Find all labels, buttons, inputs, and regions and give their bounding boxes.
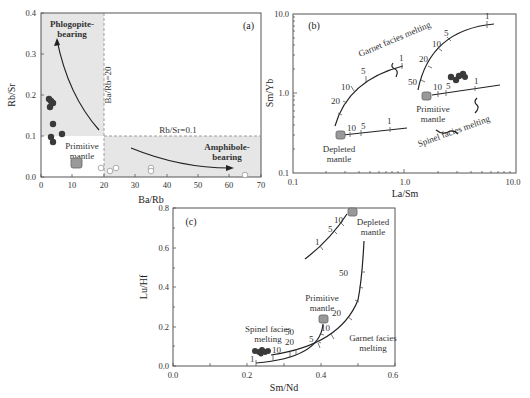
depleted-mantle-label-b-2: mantle [327,154,352,164]
svg-text:20: 20 [285,337,295,347]
panel-label-b: (b) [308,20,320,32]
svg-text:0.0: 0.0 [158,361,169,371]
amphibole-label: Amphibole- [204,142,250,152]
svg-text:1: 1 [399,53,404,63]
svg-text:20: 20 [419,54,429,64]
rb-sr-line-label: Rb/Sr=0.1 [159,125,196,135]
y-ticks-b [293,17,297,149]
svg-text:10: 10 [341,82,351,92]
spinel-curve-pm [432,85,500,95]
svg-text:40: 40 [163,180,172,190]
svg-text:50: 50 [408,77,418,87]
x-tick-label-b: 10.0 [506,177,521,187]
depleted-mantle-marker-c [348,208,357,216]
svg-text:5: 5 [361,121,366,131]
svg-text:0.3: 0.3 [25,49,36,59]
svg-text:0.6: 0.6 [388,370,399,380]
x-tick-label-b: 0.1 [288,177,299,187]
y-tick-label-b: 1.0 [278,88,289,98]
svg-text:1: 1 [485,11,490,21]
svg-text:5: 5 [309,334,314,344]
svg-text:10: 10 [68,180,77,190]
primitive-mantle-label-b-2: mantle [421,114,446,124]
svg-text:10: 10 [334,215,344,225]
garnet-facies-label-c: Garnet facies [349,333,397,343]
svg-text:30: 30 [131,180,140,190]
svg-text:10: 10 [433,82,443,92]
panel-label-a: (a) [243,20,254,32]
svg-text:0.0: 0.0 [168,370,179,380]
panel-a: 0 10 20 30 40 50 60 70 0.0 0.1 0.2 0.3 0… [6,8,265,205]
svg-text:10: 10 [272,345,282,355]
svg-text:10: 10 [321,323,331,333]
x-ticks-b [326,169,510,173]
svg-text:0.4: 0.4 [158,282,169,292]
depleted-mantle-label-c: Depleted [357,217,390,227]
svg-text:0.8: 0.8 [158,203,169,213]
primitive-mantle-marker-a [71,158,82,168]
svg-text:0.6: 0.6 [158,243,169,253]
svg-text:1: 1 [474,76,479,86]
primitive-mantle-marker-b [422,92,431,100]
primitive-mantle-marker-c [319,315,328,323]
svg-text:5: 5 [361,66,366,76]
svg-text:1: 1 [387,116,392,126]
x-tick-label-b: 1.0 [400,177,411,187]
amphibole-label-2: bearing [212,152,242,162]
svg-text:10: 10 [432,39,442,49]
svg-text:0.1: 0.1 [25,131,36,141]
svg-text:0.4: 0.4 [25,8,36,18]
svg-text:60: 60 [225,180,234,190]
figure: 0 10 20 30 40 50 60 70 0.0 0.1 0.2 0.3 0… [0,0,530,398]
svg-text:0.2: 0.2 [158,322,169,332]
depleted-mantle-label-c-2: mantle [361,227,386,237]
garnet-facies-label-c-2: melting [359,343,387,353]
svg-text:1: 1 [315,237,320,247]
svg-text:0.2: 0.2 [25,90,36,100]
svg-text:0.4: 0.4 [316,370,327,380]
svg-text:5: 5 [328,224,333,234]
svg-text:1: 1 [250,354,255,364]
spinel-facies-label-c: Spinel facies [245,324,292,334]
svg-text:0.2: 0.2 [242,370,253,380]
y-tick-labels-c: 0.00.2 0.40.6 0.8 [158,203,169,371]
svg-text:5: 5 [444,28,449,38]
x-tick-labels-c: 0.00.2 0.40.6 [168,370,399,380]
samples-b [448,71,468,83]
panel-b: 0.1 1.0 10.0 0.1 1.0 10.0 La/Sm Sm/Yb (b… [264,9,520,199]
svg-text:20: 20 [100,180,109,190]
y-tick-label-b: 0.1 [278,168,289,178]
depleted-mantle-label-b: Depleted [323,144,356,154]
svg-text:10: 10 [347,123,357,133]
panel-c: 0.00.2 0.40.6 0.00.2 0.40.6 0.8 Sm/Nd Lu… [138,203,398,393]
panel-label-c: (c) [185,216,196,228]
ba-rb-line-label: Ba/Rb=20 [103,66,113,104]
phlogopite-label-2: bearing [57,29,87,39]
svg-text:0: 0 [39,180,43,190]
y-axis-label-c: Lu/Hf [138,274,149,299]
y-axis-label-a: Rb/Sr [6,83,17,107]
svg-text:50: 50 [194,180,203,190]
svg-text:70: 70 [257,180,266,190]
y-tick-label-b: 10.0 [274,9,289,19]
depleted-mantle-marker-b [336,131,345,139]
primitive-mantle-label-a: Primitive [65,141,99,151]
primitive-mantle-label-c: Primitive [305,293,339,303]
primitive-mantle-label-b: Primitive [416,104,450,114]
garnet-facies-label-b: Garnet facies melting [357,19,433,59]
y-tick-labels-a: 0.0 0.1 0.2 0.3 0.4 [25,8,36,182]
x-axis-label-b: La/Sm [392,188,419,199]
primitive-mantle-label-c-2: mantle [310,303,335,313]
x-tick-labels-a: 0 10 20 30 40 50 60 70 [39,180,265,190]
y-axis-label-b: Sm/Yb [264,79,275,107]
leader-squiggle [392,63,397,77]
spinel-facies-label-c-2: melting [254,334,282,344]
x-axis-label-c: Sm/Nd [270,382,298,393]
svg-text:20: 20 [331,96,341,106]
svg-text:50: 50 [339,268,349,278]
svg-text:0.0: 0.0 [25,172,36,182]
svg-text:5: 5 [446,81,451,91]
samples-c [252,347,271,357]
garnet-curve-dm [335,66,403,126]
phlogopite-label: Phlogopite- [50,19,94,29]
